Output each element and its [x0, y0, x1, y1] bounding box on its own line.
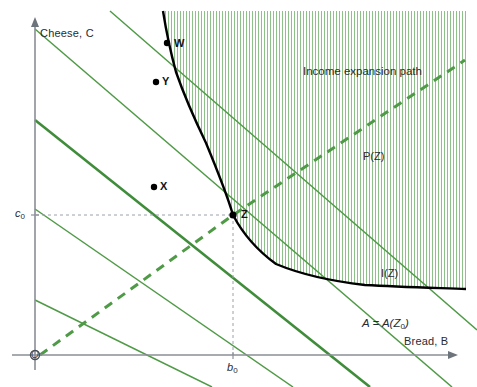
point-w-marker — [164, 40, 170, 46]
indifference-curve-label: I(Z) — [381, 268, 398, 279]
x-axis-title: Bread, B — [404, 336, 448, 347]
indifference-curve-figure: Cheese, C Bread, B O c0 b0 W Y X Z Incom… — [0, 0, 477, 387]
point-label-y: Y — [162, 76, 169, 87]
y-tick-subscript: 0 — [21, 212, 25, 221]
origin-label: O — [31, 350, 39, 360]
point-label-w: W — [174, 38, 184, 49]
point-label-z: Z — [241, 209, 248, 220]
income-expansion-path-label: Income expansion path — [303, 66, 422, 78]
point-y-marker — [153, 79, 159, 85]
point-z-marker — [229, 211, 236, 218]
point-label-x: X — [160, 181, 167, 192]
budget-line-label: A = A(Z0) — [362, 318, 409, 330]
y-axis-arrowhead — [31, 17, 39, 27]
x-tick-label-b0: b0 — [227, 362, 238, 373]
y-axis-title: Cheese, C — [40, 28, 94, 39]
budget-line-subscript: 0 — [400, 322, 404, 331]
x-axis-arrowhead — [448, 351, 458, 359]
preferred-set-label: P(Z) — [363, 151, 384, 162]
y-tick-label-c0: c0 — [15, 208, 25, 219]
x-tick-subscript: 0 — [233, 366, 237, 375]
point-x-marker — [151, 184, 157, 190]
